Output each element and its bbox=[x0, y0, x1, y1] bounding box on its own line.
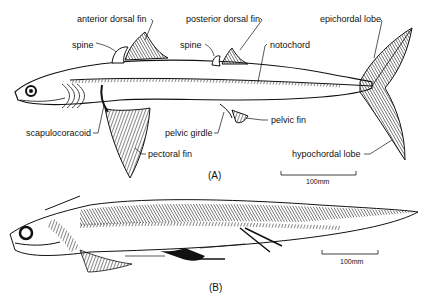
label-notochord: notochord bbox=[270, 40, 310, 50]
label-posterior-dorsal-fin: posterior dorsal fin bbox=[186, 14, 260, 24]
label-anterior-dorsal-fin: anterior dorsal fin bbox=[77, 14, 147, 24]
label-hypochordal-lobe: hypochordal lobe bbox=[292, 149, 361, 159]
fish-diagram bbox=[0, 0, 428, 302]
label-pectoral-fin: pectoral fin bbox=[148, 149, 192, 159]
panel-a-tag: (A) bbox=[208, 170, 221, 181]
label-scapulocoracoid: scapulocoracoid bbox=[26, 128, 91, 138]
label-pelvic-girdle: pelvic girdle bbox=[165, 128, 213, 138]
panel-b-tag: (B) bbox=[209, 282, 222, 293]
label-spine-anterior: spine bbox=[72, 40, 94, 50]
label-pelvic-fin: pelvic fin bbox=[271, 115, 306, 125]
label-spine-posterior: spine bbox=[180, 40, 202, 50]
scale-bar-a-label: 100mm bbox=[306, 178, 329, 185]
scale-bar-b-label: 100mm bbox=[340, 258, 363, 265]
label-epichordal-lobe: epichordal lobe bbox=[320, 14, 381, 24]
